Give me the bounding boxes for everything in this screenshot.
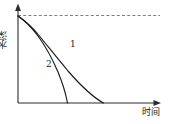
x-axis-label: 时间: [142, 108, 160, 117]
plot-area: [0, 0, 171, 124]
curve-1-path: [18, 16, 104, 103]
curve-1-label: 1: [70, 40, 76, 49]
water-depth-time-figure: 水深 时间 1 2: [0, 0, 171, 124]
curve-2-path: [18, 16, 68, 103]
curve-2-label: 2: [46, 60, 52, 69]
y-axis-label: 水深: [0, 31, 20, 49]
x-axis-arrowhead-icon: [154, 100, 162, 106]
y-axis-arrowhead-icon: [15, 4, 21, 12]
